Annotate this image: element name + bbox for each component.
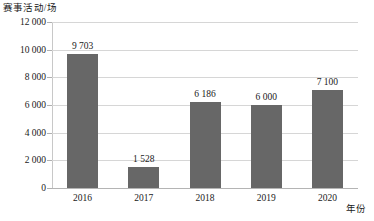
x-tick-label: 2016 bbox=[53, 192, 113, 204]
bar bbox=[251, 105, 282, 188]
gridline bbox=[52, 188, 358, 189]
y-tick-label: 10 000 bbox=[0, 45, 46, 55]
bar-chart: 赛事活动/场 年份 02 0004 0006 0008 00010 00012 … bbox=[0, 0, 374, 221]
bar bbox=[128, 167, 159, 188]
bar bbox=[67, 54, 98, 188]
plot-area: 9 7031 5286 1866 0007 100 bbox=[52, 22, 358, 188]
y-tick-label: 0 bbox=[0, 183, 46, 193]
y-axis-title: 赛事活动/场 bbox=[3, 2, 57, 15]
x-tick-label: 2018 bbox=[175, 192, 235, 204]
y-tick-label: 6 000 bbox=[0, 100, 46, 110]
y-tick-label: 4 000 bbox=[0, 128, 46, 138]
y-tick-label: 8 000 bbox=[0, 72, 46, 82]
bar-value-label: 9 703 bbox=[53, 41, 113, 52]
y-tick-mark bbox=[47, 188, 52, 189]
x-axis-title: 年份 bbox=[346, 203, 366, 215]
y-tick-label: 12 000 bbox=[0, 17, 46, 27]
bar-value-label: 6 000 bbox=[236, 92, 296, 103]
x-tick-label: 2019 bbox=[236, 192, 296, 204]
bar-value-label: 1 528 bbox=[114, 154, 174, 165]
bar-value-label: 7 100 bbox=[297, 77, 357, 88]
bar bbox=[190, 102, 221, 188]
y-tick-label: 2 000 bbox=[0, 155, 46, 165]
x-tick-label: 2017 bbox=[114, 192, 174, 204]
x-tick-label: 2020 bbox=[297, 192, 357, 204]
bar-value-label: 6 186 bbox=[175, 89, 235, 100]
bar bbox=[312, 90, 343, 188]
